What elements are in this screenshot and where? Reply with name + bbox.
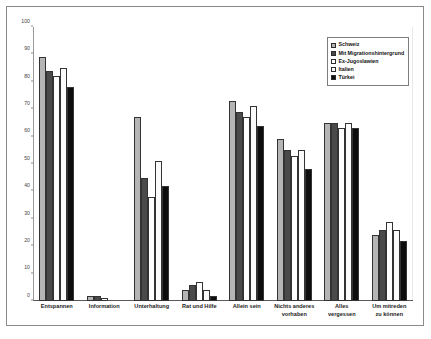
legend-item[interactable]: Italien — [331, 66, 404, 74]
bar — [210, 296, 217, 301]
bar — [324, 123, 331, 301]
x-axis-tick-label-line: vergessen — [319, 311, 365, 319]
legend-swatch-offwhite — [331, 67, 336, 72]
bar — [141, 178, 148, 301]
y-axis-tick-label: 90 — [24, 47, 30, 52]
legend-swatch-black — [331, 75, 336, 80]
y-axis-tick-label: 30 — [24, 211, 30, 216]
bar — [400, 241, 407, 301]
x-axis-tick-label: Rat und Hilfe — [176, 303, 224, 325]
legend-item[interactable]: Ex-Jugoslawien — [331, 57, 404, 65]
bar — [46, 71, 53, 301]
y-axis-tick-label: 50 — [24, 156, 30, 161]
bar — [229, 101, 236, 301]
x-axis-tick-label-line: Unterhaltung — [129, 303, 175, 311]
bar — [284, 150, 291, 301]
bar — [372, 235, 379, 301]
x-axis-labels: EntspannenInformationUnterhaltungRat und… — [33, 303, 413, 325]
bar — [352, 128, 359, 301]
x-axis-tick-label: Allein sein — [223, 303, 271, 325]
bar — [155, 161, 162, 301]
x-axis-tick-label-line: Nichts anderes — [272, 303, 318, 311]
bar — [250, 106, 257, 301]
x-axis-tick-label-line: Rat und Hilfe — [177, 303, 223, 311]
bar — [94, 296, 101, 301]
x-axis-tick-label-line: Um mitreden — [367, 303, 413, 311]
legend-item-label: Mit Migrationshintergrund — [339, 51, 405, 56]
bar — [134, 117, 141, 301]
legend-item-label: Italien — [339, 67, 354, 72]
bar — [101, 298, 108, 301]
bar-group — [271, 27, 319, 301]
x-axis-tick-label-line: zu können — [367, 311, 413, 319]
x-axis-tick-label: Allesvergessen — [318, 303, 366, 325]
bar — [148, 197, 155, 301]
x-axis-tick-label-line: vorhaben — [272, 311, 318, 319]
legend-item[interactable]: Türkei — [331, 74, 404, 82]
cut-off-heading — [6, 0, 206, 4]
bar — [393, 230, 400, 301]
bar — [257, 126, 264, 301]
chart-legend: SchweizMit MigrationshintergrundEx-Jugos… — [327, 37, 409, 86]
bar — [345, 123, 352, 301]
bar — [277, 139, 284, 301]
bar — [243, 117, 250, 301]
bar-group — [33, 27, 81, 301]
chart-frame: 0102030405060708090100 EntspannenInforma… — [6, 6, 424, 326]
legend-item-label: Schweiz — [339, 42, 360, 47]
legend-swatch-light-gray — [331, 43, 336, 48]
bar-group — [81, 27, 129, 301]
legend-item[interactable]: Schweiz — [331, 41, 404, 49]
bar-group — [176, 27, 224, 301]
bar — [305, 169, 312, 301]
bar — [298, 150, 305, 301]
bar — [60, 68, 67, 301]
bar — [67, 87, 74, 301]
x-axis-tick-label: Um mitredenzu können — [366, 303, 414, 325]
x-axis-tick-label-line: Entspannen — [34, 303, 80, 311]
bar-group — [128, 27, 176, 301]
chart-figure: 0102030405060708090100 EntspannenInforma… — [0, 0, 431, 339]
bar — [162, 186, 169, 301]
legend-item[interactable]: Mit Migrationshintergrund — [331, 49, 404, 57]
bar — [39, 57, 46, 301]
x-axis-tick-label: Information — [81, 303, 129, 325]
bar — [203, 290, 210, 301]
bar — [291, 156, 298, 301]
legend-swatch-white — [331, 59, 336, 64]
bar — [331, 123, 338, 301]
y-axis-tick-label: 100 — [21, 19, 30, 24]
y-axis-tick-label: 0 — [27, 293, 30, 298]
bar-group — [223, 27, 271, 301]
x-axis-tick-label: Unterhaltung — [128, 303, 176, 325]
y-axis-tick-label: 10 — [24, 266, 30, 271]
x-axis-tick-label: Nichts anderesvorhaben — [271, 303, 319, 325]
bar — [189, 285, 196, 301]
legend-item-label: Ex-Jugoslawien — [339, 59, 379, 64]
y-axis-tick-label: 60 — [24, 129, 30, 134]
bar — [338, 128, 345, 301]
x-axis-tick-label-line: Alles — [319, 303, 365, 311]
y-axis-tick-label: 80 — [24, 74, 30, 79]
bar — [196, 282, 203, 301]
bar — [236, 112, 243, 301]
bar — [87, 296, 94, 301]
bar — [386, 222, 393, 301]
legend-swatch-dark-gray — [331, 51, 336, 56]
bar — [182, 290, 189, 301]
bar — [53, 76, 60, 301]
bar — [379, 230, 386, 301]
x-axis-tick-label: Entspannen — [33, 303, 81, 325]
y-axis-tick-label: 20 — [24, 238, 30, 243]
x-axis-tick-label-line: Allein sein — [224, 303, 270, 311]
legend-item-label: Türkei — [339, 75, 355, 80]
y-axis-tick-label: 70 — [24, 101, 30, 106]
x-axis-tick-label-line: Information — [82, 303, 128, 311]
y-axis-tick-label: 40 — [24, 184, 30, 189]
